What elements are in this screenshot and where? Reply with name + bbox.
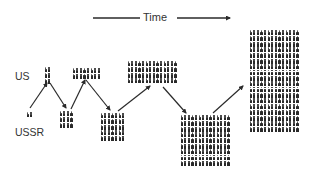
arrow-ussr-4-to-us-4 <box>213 86 243 113</box>
us-row-label: US <box>15 70 30 82</box>
person-figure-icon <box>296 127 299 133</box>
person-figure-icon <box>122 136 125 142</box>
arrow-us-3-to-ussr-4 <box>163 87 186 113</box>
arrow-ussr-3-to-us-3 <box>118 86 150 111</box>
figure-group-us-1 <box>44 67 51 84</box>
arrow-us-2-to-ussr-3 <box>86 80 110 110</box>
person-figure-icon <box>70 122 73 128</box>
person-figure-icon <box>174 78 177 84</box>
figure-group-us-2 <box>72 68 101 79</box>
figure-group-ussr-2 <box>59 111 73 128</box>
arrow-ussr-1-to-us-1 <box>30 83 47 108</box>
arrow-us-1-to-ussr-2 <box>50 83 66 108</box>
figure-group-ussr-3 <box>100 113 125 141</box>
arrow-ussr-2-to-us-2 <box>71 80 85 109</box>
time-label: Time <box>143 11 167 23</box>
figure-group-ussr-1 <box>26 112 33 118</box>
person-figure-icon <box>97 74 100 80</box>
ussr-row-label: USSR <box>15 126 44 138</box>
figure-group-ussr-4 <box>180 115 230 166</box>
figure-group-us-3 <box>127 61 177 84</box>
progression-arrows <box>30 80 243 113</box>
person-figure-icon <box>48 78 51 84</box>
person-figure-icon <box>30 112 33 118</box>
figure-group-us-4 <box>249 30 299 132</box>
person-figure-icon <box>227 161 230 167</box>
